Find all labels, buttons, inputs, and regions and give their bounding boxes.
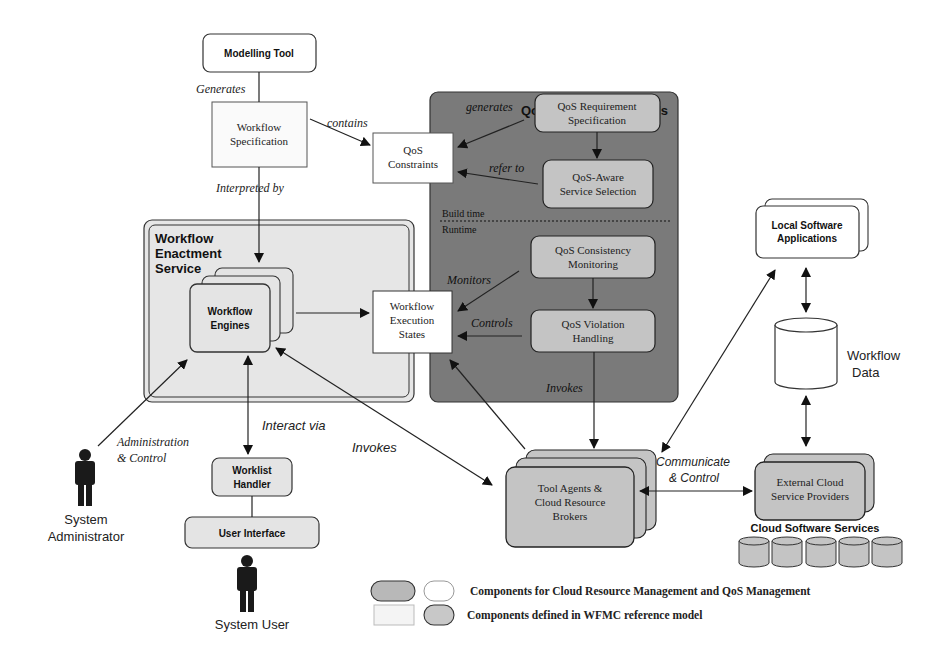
qos-aware-service-selection-node: QoS-Aware Service Selection — [543, 160, 653, 208]
svg-text:Service Selection: Service Selection — [560, 185, 637, 197]
svg-text:Applications: Applications — [777, 233, 837, 244]
runtime-label: Runtime — [442, 224, 477, 235]
edge-label-admin-1: Administration — [116, 435, 189, 449]
modelling-tool-node: Modelling Tool — [203, 34, 316, 72]
system-administrator-label-2: Administrator — [48, 529, 125, 544]
edge-label-contains: contains — [327, 116, 368, 130]
user-interface-node: User Interface — [185, 517, 319, 548]
svg-text:Workflow: Workflow — [390, 300, 434, 312]
svg-text:Workflow: Workflow — [237, 121, 281, 133]
system-administrator-person-icon — [75, 449, 95, 506]
svg-text:Handling: Handling — [573, 332, 614, 344]
edge-label-invokes-qos: Invokes — [545, 381, 583, 395]
legend-swatch-light-rect — [374, 605, 414, 625]
workflow-data-database-icon: Workflow Data — [775, 318, 901, 389]
svg-text:Workflow: Workflow — [208, 306, 253, 317]
architecture-diagram: QoS Management Tools Build time Runtime … — [0, 0, 942, 658]
local-software-applications-node: Local Software Applications — [756, 199, 868, 258]
svg-text:Specification: Specification — [230, 135, 289, 147]
svg-text:Cloud Resource: Cloud Resource — [535, 496, 606, 508]
legend-label-2: Components defined in WFMC reference mod… — [467, 609, 702, 622]
svg-text:Execution: Execution — [390, 314, 435, 326]
workflow-execution-states-node: Workflow Execution States — [373, 291, 452, 353]
edge-label-communicate-1: Communicate — [656, 455, 730, 469]
wes-title-3: Service — [155, 261, 201, 276]
legend: Components for Cloud Resource Management… — [371, 581, 811, 625]
edge-label-controls: Controls — [471, 316, 513, 330]
svg-text:QoS Requirement: QoS Requirement — [557, 100, 636, 112]
legend-label-1: Components for Cloud Resource Management… — [470, 585, 811, 598]
legend-swatch-gray — [424, 605, 454, 625]
edge-label-interpreted-by: Interpreted by — [215, 181, 285, 195]
edge-label-monitors: Monitors — [446, 273, 491, 287]
workflow-specification-node: Workflow Specification — [212, 102, 307, 167]
svg-text:Service Providers: Service Providers — [771, 490, 849, 502]
svg-text:Tool Agents &: Tool Agents & — [538, 482, 603, 494]
tool-agents-node: Tool Agents & Cloud Resource Brokers — [506, 450, 656, 547]
svg-text:External Cloud: External Cloud — [777, 476, 844, 488]
svg-text:Constraints: Constraints — [388, 158, 438, 170]
workflow-data-label-1: Workflow — [847, 348, 901, 363]
svg-text:Worklist: Worklist — [232, 465, 272, 476]
legend-swatch-dark — [371, 581, 415, 601]
svg-text:QoS Consistency: QoS Consistency — [555, 244, 632, 256]
edge-label-admin-2: & Control — [117, 451, 167, 465]
svg-text:User Interface: User Interface — [219, 528, 286, 539]
workflow-data-label-2: Data — [852, 365, 880, 380]
build-time-label: Build time — [442, 208, 485, 219]
edge-label-invokes: Invokes — [352, 440, 397, 455]
edge-label-generates: Generates — [196, 82, 246, 96]
worklist-handler-node: Worklist Handler — [212, 458, 292, 496]
cloud-software-services-database-icons — [739, 537, 902, 567]
edge-label-refer-to: refer to — [489, 161, 524, 175]
edge-label-communicate-2: & Control — [669, 471, 719, 485]
svg-text:Modelling Tool: Modelling Tool — [224, 48, 294, 59]
svg-text:States: States — [399, 328, 425, 340]
workflow-engines-node: Workflow Engines — [190, 268, 293, 352]
system-administrator-label-1: System — [64, 512, 107, 527]
edge-label-generates-qos: generates — [466, 100, 513, 114]
svg-text:Local Software: Local Software — [771, 220, 843, 231]
svg-text:QoS: QoS — [403, 144, 423, 156]
qos-violation-handling-node: QoS Violation Handling — [531, 310, 655, 352]
qos-consistency-monitoring-node: QoS Consistency Monitoring — [531, 236, 655, 278]
wes-title-1: Workflow — [155, 231, 214, 246]
svg-text:Engines: Engines — [211, 320, 250, 331]
svg-text:QoS Violation: QoS Violation — [561, 318, 625, 330]
svg-text:QoS-Aware: QoS-Aware — [572, 171, 624, 183]
external-cloud-service-providers-node: External Cloud Service Providers — [755, 454, 874, 520]
svg-text:Monitoring: Monitoring — [568, 258, 619, 270]
system-user-label: System User — [215, 617, 290, 632]
svg-text:Specification: Specification — [568, 114, 627, 126]
qos-requirement-specification-node: QoS Requirement Specification — [535, 94, 660, 132]
qos-constraints-node: QoS Constraints — [373, 133, 453, 183]
legend-swatch-white — [424, 581, 454, 601]
cloud-software-services-label: Cloud Software Services — [751, 522, 880, 534]
edge-label-interact-via: Interact via — [262, 418, 326, 433]
system-user-person-icon — [237, 555, 257, 612]
svg-text:Handler: Handler — [233, 479, 270, 490]
wes-title-2: Enactment — [155, 246, 222, 261]
svg-text:Brokers: Brokers — [553, 510, 588, 522]
